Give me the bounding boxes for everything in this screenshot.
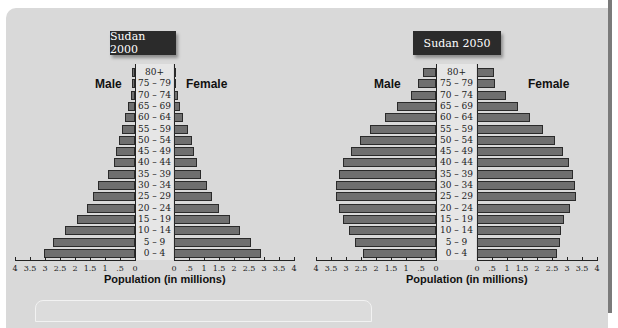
female-bar	[174, 136, 192, 145]
x-tick	[537, 257, 538, 261]
female-bar	[174, 226, 240, 235]
x-tick	[361, 257, 362, 261]
female-bar	[174, 125, 188, 134]
age-group-label: 15 – 19	[439, 214, 475, 225]
female-bar	[477, 102, 518, 111]
male-bar	[339, 204, 437, 213]
x-tick-label: 4	[308, 264, 324, 273]
female-bar	[477, 204, 570, 213]
x-tick-label: 3.5	[22, 264, 38, 273]
male-bar	[93, 192, 135, 201]
x-tick-label: 1.5	[211, 264, 227, 273]
age-group-label: 60 – 64	[439, 112, 475, 123]
female-bar	[477, 215, 564, 224]
x-tick-label: 2.5	[544, 264, 560, 273]
x-axis-title: Population (in millions)	[406, 273, 528, 285]
x-tick-label: 0	[428, 264, 444, 273]
female-bar	[174, 113, 183, 122]
x-tick-label: 1	[97, 264, 113, 273]
chart-title: Sudan 2050	[413, 31, 501, 55]
female-bar	[174, 170, 201, 179]
male-bar	[360, 136, 437, 145]
male-bar	[114, 158, 135, 167]
age-group-label: 65 – 69	[137, 101, 173, 112]
male-bar	[370, 125, 436, 134]
x-tick	[391, 257, 392, 261]
x-tick	[346, 257, 347, 261]
x-tick-label: 1.5	[383, 264, 399, 273]
male-label: Male	[95, 77, 122, 91]
female-bar	[174, 204, 219, 213]
female-bar	[477, 136, 555, 145]
x-tick	[174, 257, 175, 261]
female-bar	[477, 147, 563, 156]
x-tick	[234, 257, 235, 261]
male-bar	[53, 238, 136, 247]
male-bar	[349, 226, 436, 235]
x-tick	[507, 257, 508, 261]
x-tick	[567, 257, 568, 261]
x-tick	[15, 257, 16, 261]
x-tick-label: .5	[484, 264, 500, 273]
female-bar	[477, 249, 557, 258]
male-bar	[65, 226, 136, 235]
x-tick-label: .5	[181, 264, 197, 273]
female-bar	[174, 91, 178, 100]
x-tick	[45, 257, 46, 261]
female-bar	[477, 125, 543, 134]
x-tick-label: 3.5	[271, 264, 287, 273]
male-bar	[98, 181, 136, 190]
male-bar	[411, 91, 437, 100]
male-bar	[116, 147, 136, 156]
age-group-label: 25 – 29	[439, 191, 475, 202]
x-tick	[75, 257, 76, 261]
age-group-label: 40 – 44	[439, 157, 475, 168]
age-group-label: 0 – 4	[439, 248, 475, 259]
male-label: Male	[374, 77, 401, 91]
age-group-label: 50 – 54	[137, 135, 173, 146]
male-bar	[343, 215, 436, 224]
x-tick	[597, 257, 598, 261]
x-tick-label: 2	[226, 264, 242, 273]
x-tick-label: .5	[413, 264, 429, 273]
x-tick	[249, 257, 250, 261]
x-tick-label: 3.5	[323, 264, 339, 273]
x-tick-label: 1.5	[82, 264, 98, 273]
male-bar	[125, 113, 136, 122]
x-tick	[331, 257, 332, 261]
male-bar	[108, 170, 135, 179]
x-tick-label: 3	[559, 264, 575, 273]
x-tick-label: 2	[529, 264, 545, 273]
male-bar	[339, 170, 437, 179]
x-tick-label: 4	[7, 264, 23, 273]
age-group-label: 35 – 39	[137, 169, 173, 180]
x-tick	[492, 257, 493, 261]
female-bar	[174, 215, 230, 224]
male-bar	[343, 158, 436, 167]
x-tick-label: 4	[589, 264, 605, 273]
age-group-label: 15 – 19	[137, 214, 173, 225]
male-bar	[418, 79, 436, 88]
age-group-label: 45 – 49	[439, 146, 475, 157]
x-tick-label: 1.5	[514, 264, 530, 273]
age-group-label: 40 – 44	[137, 157, 173, 168]
x-tick	[135, 257, 136, 261]
x-tick-label: 4	[286, 264, 302, 273]
male-bar	[336, 192, 437, 201]
chart-title: Sudan 2000	[110, 31, 176, 55]
x-tick	[436, 257, 437, 261]
x-tick	[477, 257, 478, 261]
age-group-label: 80+	[137, 67, 173, 78]
age-group-label: 35 – 39	[439, 169, 475, 180]
female-bar	[477, 238, 560, 247]
female-bar	[174, 192, 212, 201]
x-tick-label: .5	[112, 264, 128, 273]
x-tick	[105, 257, 106, 261]
age-group-label: 25 – 29	[137, 191, 173, 202]
female-bar	[174, 181, 207, 190]
x-tick-label: 1	[398, 264, 414, 273]
female-bar	[174, 68, 176, 77]
male-bar	[397, 102, 436, 111]
female-bar	[174, 238, 251, 247]
male-bar	[132, 79, 135, 88]
